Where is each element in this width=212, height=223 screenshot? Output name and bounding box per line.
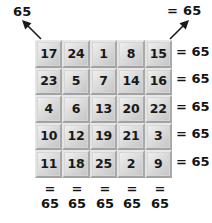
column-sum-2: = 65 [63,182,91,210]
arrow-up-left-icon [21,19,43,41]
cell-value: 5 [72,75,81,88]
cell-value: 16 [150,75,167,88]
cell-value: 9 [154,158,163,171]
magic-square-figure: 65 = 65 17 24 1 8 15 23 5 7 14 16 4 6 13… [0,0,212,223]
sum-value: 65 [36,197,64,210]
grid-cell: 19 [90,123,117,151]
equals-sign: = [63,182,91,195]
equals-sign: = [118,182,146,195]
sum-value: 65 [118,197,146,210]
grid-cell: 17 [35,40,62,68]
column-sum-3: = 65 [91,182,119,210]
grid-cell: 5 [62,68,89,96]
cell-value: 17 [40,48,57,61]
cell-value: 7 [99,75,108,88]
diagonal-sum-top-left: 65 [13,5,32,19]
row-sum-3: = 65 [176,100,210,114]
grid-cell: 23 [35,68,62,96]
cell-value: 18 [68,158,85,171]
cell-value: 19 [95,130,112,143]
cell-value: 4 [44,103,53,116]
column-sum-5: = 65 [146,182,174,210]
equals-sign: = [146,182,174,195]
grid-cell: 3 [145,123,172,151]
row-sum-1: = 65 [176,45,210,59]
cell-value: 14 [122,75,139,88]
cell-value: 10 [40,130,57,143]
cell-value: 21 [122,130,139,143]
grid-cell: 4 [35,95,62,123]
cell-value: 13 [95,103,112,116]
diagonal-sum-top-right: = 65 [167,4,202,18]
grid-cell: 14 [117,68,144,96]
grid-cell: 13 [90,95,117,123]
grid-cell: 16 [145,68,172,96]
cell-value: 3 [154,130,163,143]
column-sum-1: = 65 [36,182,64,210]
cell-value: 25 [95,158,112,171]
column-sum-4: = 65 [118,182,146,210]
cell-value: 20 [122,103,139,116]
cell-value: 23 [40,75,57,88]
cell-value: 6 [72,103,81,116]
grid-cell: 7 [90,68,117,96]
grid-cell: 9 [145,150,172,178]
sum-value: 65 [63,197,91,210]
grid-cell: 10 [35,123,62,151]
grid-cell: 25 [90,150,117,178]
grid-cell: 2 [117,150,144,178]
grid-cell: 11 [35,150,62,178]
grid-cell: 8 [117,40,144,68]
grid-cell: 15 [145,40,172,68]
cell-value: 8 [127,48,136,61]
grid-cell: 24 [62,40,89,68]
grid-cell: 1 [90,40,117,68]
grid-cell: 20 [117,95,144,123]
grid-cell: 6 [62,95,89,123]
sum-value: 65 [146,197,174,210]
cell-value: 24 [68,48,85,61]
equals-sign: = [91,182,119,195]
arrow-up-right-icon [168,19,190,41]
cell-value: 22 [150,103,167,116]
cell-value: 15 [150,48,167,61]
row-sum-4: = 65 [176,127,210,141]
cell-value: 1 [99,48,108,61]
cell-value: 11 [40,158,57,171]
equals-sign: = [36,182,64,195]
grid-cell: 12 [62,123,89,151]
grid-cell: 18 [62,150,89,178]
cell-value: 2 [127,158,136,171]
grid-cell: 22 [145,95,172,123]
sum-value: 65 [91,197,119,210]
grid-cell: 21 [117,123,144,151]
cell-value: 12 [68,130,85,143]
row-sum-2: = 65 [176,72,210,86]
row-sum-5: = 65 [176,155,210,169]
magic-square-grid: 17 24 1 8 15 23 5 7 14 16 4 6 13 20 22 1… [35,40,172,178]
